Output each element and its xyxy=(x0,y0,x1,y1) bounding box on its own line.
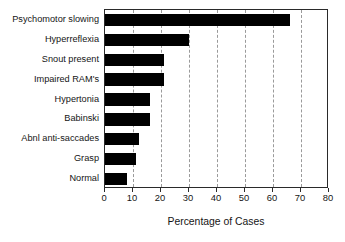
x-axis-tick-label: 30 xyxy=(183,192,193,203)
bar xyxy=(105,113,150,125)
x-axis-tick-label: 10 xyxy=(127,192,137,203)
y-axis-tick-label: Hypertonia xyxy=(55,94,99,104)
y-axis-tick-label: Psychomotor slowing xyxy=(12,14,99,24)
y-axis-category-labels: Psychomotor slowingHyperreflexiaSnout pr… xyxy=(0,9,102,188)
y-axis-tick-label: Normal xyxy=(69,173,99,183)
bar xyxy=(105,133,139,145)
y-axis-tick-label: Babinski xyxy=(64,113,99,123)
bar xyxy=(105,14,290,26)
x-axis-tick-label: 40 xyxy=(211,192,221,203)
x-axis-ticks: 01020304050607080 xyxy=(104,188,328,206)
bar xyxy=(105,93,150,105)
y-axis-tick-label: Abnl anti-saccades xyxy=(21,133,99,143)
x-axis-tick-label: 60 xyxy=(267,192,277,203)
x-axis-tick-label: 0 xyxy=(101,192,106,203)
x-axis-tick-label: 50 xyxy=(239,192,249,203)
bar-series xyxy=(105,10,327,187)
bar xyxy=(105,173,127,185)
bar xyxy=(105,34,189,46)
y-axis-tick-label: Impaired RAM's xyxy=(34,74,99,84)
plot-area xyxy=(104,9,328,188)
bar xyxy=(105,54,164,66)
x-axis-tick-label: 70 xyxy=(295,192,305,203)
y-axis-tick-label: Grasp xyxy=(74,153,99,163)
x-axis-tick-label: 80 xyxy=(323,192,333,203)
bar xyxy=(105,153,136,165)
y-axis-tick-label: Snout present xyxy=(42,54,99,64)
x-axis-title: Percentage of Cases xyxy=(104,216,328,227)
y-axis-tick-label: Hyperreflexia xyxy=(45,34,99,44)
x-axis-tick-label: 20 xyxy=(155,192,165,203)
bar-chart-figure: Psychomotor slowingHyperreflexiaSnout pr… xyxy=(0,0,345,242)
bar xyxy=(105,73,164,85)
